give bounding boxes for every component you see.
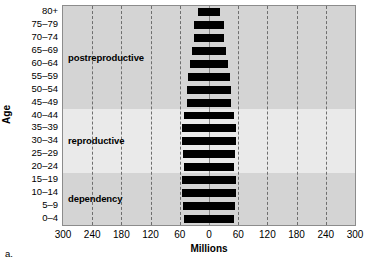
y-tick-25–29: 25–29	[12, 148, 58, 158]
bar-left-75–79	[194, 21, 209, 29]
bar-left-80+	[198, 8, 209, 16]
y-tick-65–69: 65–69	[12, 45, 58, 55]
bar-left-20–24	[184, 163, 209, 171]
bar-left-40–44	[184, 112, 209, 120]
bar-left-45–49	[187, 99, 209, 107]
bar-right-65–69	[209, 47, 226, 55]
x-axis-title: Millions	[62, 243, 356, 254]
zone-label-reproductive: reproductive	[68, 135, 124, 146]
bar-left-50–54	[187, 86, 209, 94]
bar-left-30–34	[182, 137, 209, 145]
y-tick-30–34: 30–34	[12, 135, 58, 145]
y-tick-75–79: 75–79	[12, 19, 58, 29]
gridline	[121, 6, 122, 225]
x-axis-tick-labels: 30024018012060060120180240300	[62, 229, 356, 243]
y-tick-35–39: 35–39	[12, 122, 58, 132]
y-tick-40–44: 40–44	[12, 110, 58, 120]
y-tick-60–64: 60–64	[12, 58, 58, 68]
y-axis-tick-labels: 80+75–7970–7465–6960–6455–5950–5445–4940…	[14, 5, 61, 226]
bar-left-5–9	[183, 202, 209, 210]
bar-right-20–24	[209, 163, 234, 171]
y-tick-0–4: 0–4	[12, 213, 58, 223]
gridline	[326, 6, 327, 225]
panel-caption: a.	[5, 248, 13, 259]
y-tick-10–14: 10–14	[12, 187, 58, 197]
bar-right-70–74	[209, 34, 224, 42]
gridline	[92, 6, 93, 225]
bar-left-25–29	[183, 150, 209, 158]
bar-right-50–54	[209, 86, 231, 94]
bar-left-65–69	[192, 47, 209, 55]
bar-left-10–14	[182, 189, 209, 197]
bar-right-5–9	[209, 202, 235, 210]
gridline	[297, 6, 298, 225]
bar-right-30–34	[209, 137, 236, 145]
gridline	[180, 6, 181, 225]
bar-right-35–39	[209, 124, 236, 132]
bar-left-15–19	[182, 176, 209, 184]
bar-right-45–49	[209, 99, 231, 107]
bar-right-25–29	[209, 150, 235, 158]
y-axis-title-text: Age	[2, 104, 13, 123]
y-tick-55–59: 55–59	[12, 71, 58, 81]
y-tick-70–74: 70–74	[12, 32, 58, 42]
bar-left-70–74	[194, 34, 209, 42]
bar-left-0–4	[184, 215, 209, 223]
y-tick-15–19: 15–19	[12, 174, 58, 184]
y-tick-20–24: 20–24	[12, 161, 58, 171]
y-tick-5–9: 5–9	[12, 200, 58, 210]
bar-right-80+	[209, 8, 220, 16]
gridline	[151, 6, 152, 225]
bar-right-60–64	[209, 60, 228, 68]
bar-left-60–64	[190, 60, 209, 68]
zone-label-dependency: dependency	[68, 193, 122, 204]
x-tick-10: 300	[335, 229, 368, 240]
y-tick-45–49: 45–49	[12, 97, 58, 107]
bar-right-0–4	[209, 215, 234, 223]
y-tick-50–54: 50–54	[12, 84, 58, 94]
gridline	[238, 6, 239, 225]
bar-right-10–14	[209, 189, 236, 197]
bar-left-55–59	[188, 73, 209, 81]
bar-right-55–59	[209, 73, 230, 81]
zone-label-postreproductive: postreproductive	[68, 52, 144, 63]
gridline	[267, 6, 268, 225]
bar-right-75–79	[209, 21, 224, 29]
bar-right-15–19	[209, 176, 236, 184]
plot-area: postreproductivereproductivedependency	[62, 5, 356, 226]
bar-left-35–39	[182, 124, 209, 132]
y-tick-80+: 80+	[12, 6, 58, 16]
bar-right-40–44	[209, 112, 234, 120]
